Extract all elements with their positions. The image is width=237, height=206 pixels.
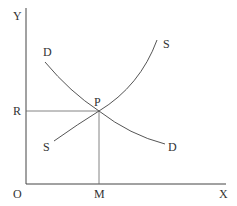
equilibrium-label: P bbox=[94, 95, 101, 109]
demand-label-end: D bbox=[168, 140, 177, 154]
supply-label-start: S bbox=[43, 140, 50, 154]
supply-curve bbox=[54, 40, 157, 141]
demand-label-start: D bbox=[43, 45, 52, 59]
supply-label-end: S bbox=[163, 37, 170, 51]
x-axis-label: X bbox=[219, 187, 228, 201]
origin-label: O bbox=[13, 187, 22, 201]
y-axis-label: Y bbox=[13, 9, 22, 23]
demand-curve bbox=[45, 62, 165, 144]
supply-demand-diagram: Y O X R M P D D S S bbox=[0, 0, 237, 206]
price-label: R bbox=[13, 104, 21, 118]
quantity-label: M bbox=[94, 187, 105, 201]
